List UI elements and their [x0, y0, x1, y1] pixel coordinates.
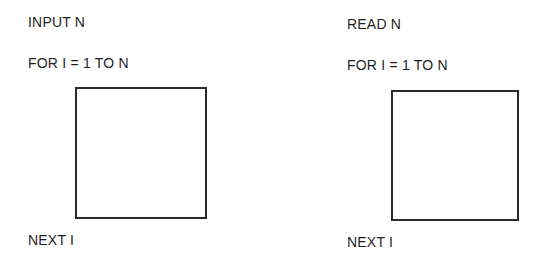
loop-body-box: [391, 90, 519, 221]
next-statement: NEXT I: [347, 235, 393, 249]
for-loop-statement: FOR I = 1 TO N: [28, 56, 129, 70]
for-loop-statement: FOR I = 1 TO N: [347, 58, 448, 72]
next-statement: NEXT I: [28, 233, 74, 247]
loop-body-box: [75, 87, 207, 219]
input-statement: INPUT N: [28, 15, 85, 29]
read-statement: READ N: [347, 17, 401, 31]
